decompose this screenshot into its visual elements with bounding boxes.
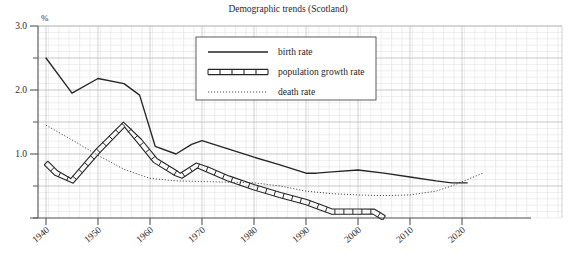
y-axis-unit-label: %: [41, 13, 49, 23]
chart-legend: birth ratepopulation growth ratedeath ra…: [196, 37, 376, 100]
legend-label: birth rate: [278, 47, 313, 57]
y-tick-label: 3.0: [15, 21, 27, 31]
demographic-trends-chart: Demographic trends (Scotland) 3.02.01.0 …: [0, 0, 576, 268]
page-title: Demographic trends (Scotland): [228, 4, 347, 15]
legend-label: death rate: [278, 87, 315, 97]
y-tick-label: 2.0: [15, 85, 27, 95]
legend-label: population growth rate: [278, 67, 365, 77]
chart-canvas: Demographic trends (Scotland) 3.02.01.0 …: [0, 0, 576, 268]
y-tick-label: 1.0: [15, 149, 27, 159]
